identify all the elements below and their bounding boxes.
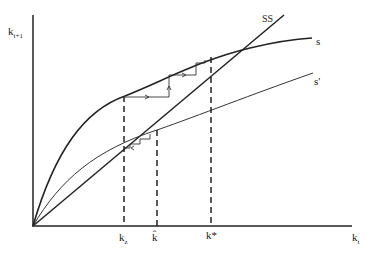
- kstar-label: k*: [206, 230, 217, 241]
- ss-label: SS: [262, 14, 273, 24]
- ss-line: [33, 15, 284, 226]
- x-axis-label: kt: [352, 232, 359, 246]
- s-prime-curve: [33, 73, 313, 226]
- khat-label: k̂: [152, 232, 158, 243]
- y-axis-label: kt+1: [8, 26, 23, 40]
- s-prime-label: s': [314, 76, 320, 87]
- s-label: s: [316, 36, 320, 47]
- cobweb-down: [124, 134, 150, 150]
- s-curve: [33, 38, 312, 226]
- kz-label: kz: [119, 232, 128, 246]
